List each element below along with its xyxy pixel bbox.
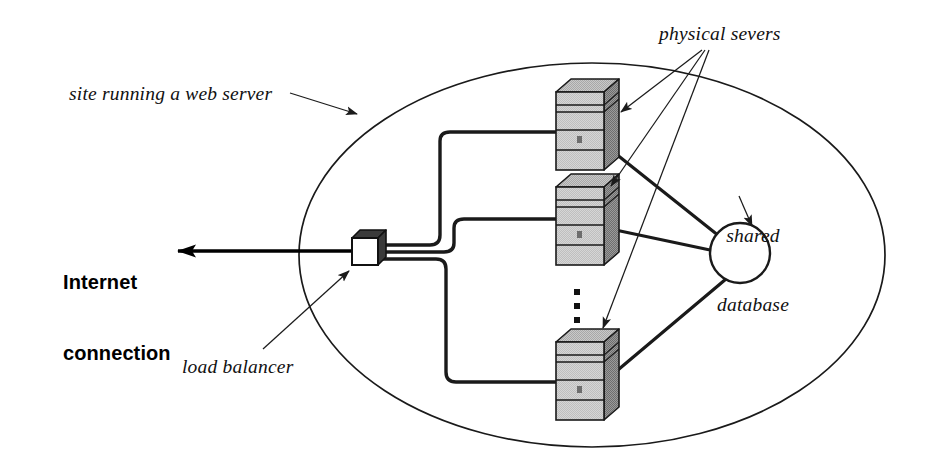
site-label-arrow xyxy=(290,93,357,114)
annotation-arrows xyxy=(263,50,752,349)
diagram-canvas: site running a web server physical sever… xyxy=(0,0,926,469)
servers-to-database-links xyxy=(606,146,726,380)
site-boundary-label: site running a web server xyxy=(69,82,272,105)
internet-connection-label: Internet connection xyxy=(63,224,171,413)
more-servers-ellipsis xyxy=(574,289,580,323)
shared-database-label: shared database xyxy=(717,178,789,362)
link-lb-server-top xyxy=(379,132,556,245)
internet-connection-label-line2: connection xyxy=(63,342,171,366)
physical-server-top xyxy=(556,79,619,170)
link-server-top-database xyxy=(606,146,719,236)
load-balancer-box xyxy=(352,230,386,265)
shared-database-label-line1: shared xyxy=(717,224,789,247)
link-lb-server-bottom xyxy=(379,259,556,382)
physical-server-bottom xyxy=(556,329,619,420)
internet-connection-label-line1: Internet xyxy=(63,271,171,295)
load-balancer-label: load balancer xyxy=(182,355,293,378)
physical-server-middle xyxy=(556,174,619,265)
load-balancer-arrow xyxy=(263,271,349,349)
link-lb-server-middle xyxy=(379,219,556,252)
link-server-middle-database xyxy=(606,228,710,250)
physical-servers-label: physical severs xyxy=(659,22,781,45)
load-balancer-to-servers-links xyxy=(379,132,556,382)
link-server-bottom-database xyxy=(606,279,726,380)
physical-arrow-top xyxy=(621,50,702,112)
physical-arrow-middle xyxy=(611,50,705,186)
shared-database-label-line2: database xyxy=(717,293,789,316)
